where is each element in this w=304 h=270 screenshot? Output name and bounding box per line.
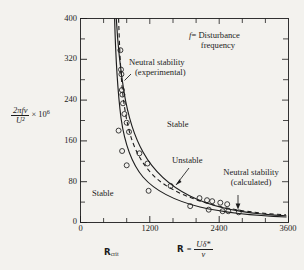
unstable-arrowhead xyxy=(176,179,182,185)
y-axis-minor-ticks xyxy=(81,39,86,202)
f-definition-text: = Disturbance xyxy=(191,30,240,40)
y-tick-label-240: 240 xyxy=(51,95,77,105)
y-axis-label: 2πfν U² × 106 xyxy=(11,106,50,125)
annotation-stable-lower: Stable xyxy=(92,189,113,199)
y-axis-label-multiplier: × 10 xyxy=(32,110,47,119)
y-axis-label-numerator: 2πfν xyxy=(11,106,29,115)
x-tick-label-2400: 2400 xyxy=(205,224,233,234)
y-axis-label-exponent: 6 xyxy=(47,108,50,115)
x-axis-minor-ticks xyxy=(104,218,266,223)
y-axis-label-fraction: 2πfν U² xyxy=(11,106,29,125)
x-tick-label-0: 0 xyxy=(68,224,93,234)
x-tick-label-3600: 3600 xyxy=(274,224,302,234)
x-axis-label-symbol: R xyxy=(177,245,184,255)
x-axis-label: R = Uδ* ν xyxy=(177,240,213,260)
x-tick-label-1200: 1200 xyxy=(136,224,164,234)
annotation-stable-upper: Stable xyxy=(167,120,188,130)
neutral-calculated-arrowhead xyxy=(236,204,241,210)
annotation-neutral-calculated: Neutral stability (calculated) xyxy=(205,168,297,187)
stability-diagram-figure: 400 320 240 160 80 0 0 1200 2400 3600 2π… xyxy=(0,0,304,270)
x-axis-label-denominator: ν xyxy=(194,249,212,259)
annotation-unstable: Unstable xyxy=(172,156,203,166)
rcrit-symbol: R xyxy=(104,247,111,257)
y-axis-label-denominator: U² xyxy=(11,115,29,125)
x-axis-label-numerator: Uδ* xyxy=(194,240,212,249)
neutral-experimental-line2: (experimental) xyxy=(129,68,186,78)
top-axis-ticks xyxy=(104,19,266,25)
neutral-calculated-line2: (calculated) xyxy=(205,178,297,188)
x-axis-label-equals: = xyxy=(187,245,192,254)
rcrit-subscript: crit xyxy=(111,251,119,257)
annotation-f-definition: f= Disturbance frequency xyxy=(189,31,240,50)
annotation-neutral-experimental: Neutral stability (experimental) xyxy=(129,58,186,77)
y-tick-label-160: 160 xyxy=(51,136,77,146)
x-axis-rcrit-label: Rcrit xyxy=(104,241,119,259)
y-tick-label-80: 80 xyxy=(51,177,77,187)
x-axis-label-fraction: Uδ* ν xyxy=(194,240,212,260)
x-axis-major-ticks xyxy=(81,216,289,223)
y-tick-label-320: 320 xyxy=(51,54,77,64)
f-definition-text-line2: frequency xyxy=(189,41,240,51)
y-tick-label-400: 400 xyxy=(51,14,77,24)
